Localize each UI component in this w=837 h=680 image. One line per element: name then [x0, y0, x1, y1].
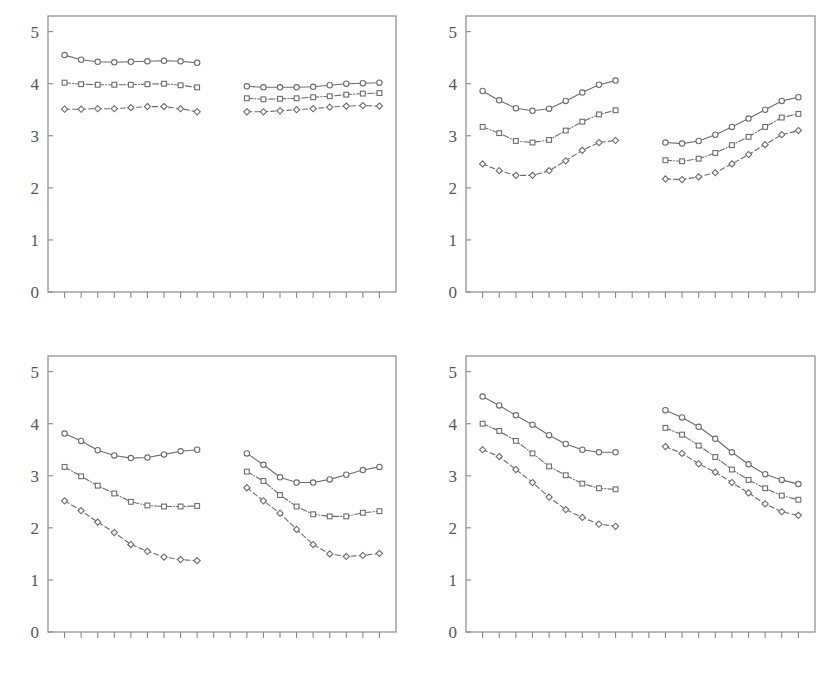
data-point-marker-diamond: [513, 172, 519, 178]
data-point-marker-diamond: [327, 104, 333, 110]
data-point-marker-circle: [277, 475, 282, 480]
data-point-marker-circle: [62, 52, 67, 57]
data-point-marker-square: [480, 125, 485, 130]
data-point-marker-circle: [613, 450, 618, 455]
data-point-marker-circle: [779, 98, 784, 103]
data-point-marker-square: [112, 491, 117, 496]
data-point-marker-diamond: [277, 108, 283, 114]
y-axis-tick-label: 3: [449, 127, 458, 146]
data-point-marker-square: [680, 432, 685, 437]
data-point-marker-square: [746, 478, 751, 483]
data-point-marker-square: [480, 421, 485, 426]
panel-plot-area: 012345: [0, 0, 418, 340]
data-point-marker-square: [79, 82, 84, 87]
y-axis-tick-label: 1: [31, 231, 40, 250]
data-point-marker-circle: [112, 453, 117, 458]
data-point-marker-square: [377, 509, 382, 514]
data-point-marker-square: [680, 159, 685, 164]
data-point-marker-diamond: [612, 523, 618, 529]
data-point-marker-circle: [261, 85, 266, 90]
data-point-marker-circle: [762, 107, 767, 112]
y-axis-tick-label: 0: [31, 623, 40, 642]
data-point-marker-square: [377, 91, 382, 96]
data-point-marker-square: [597, 112, 602, 117]
y-axis-tick-label: 0: [449, 283, 458, 302]
data-point-marker-circle: [729, 450, 734, 455]
series-line-series-3: [65, 501, 198, 561]
data-point-marker-diamond: [795, 127, 801, 133]
data-point-marker-square: [261, 97, 266, 102]
y-axis-tick-label: 4: [31, 415, 40, 434]
data-point-marker-diamond: [779, 132, 785, 138]
panel-plot-area: 012345: [0, 340, 418, 680]
data-point-marker-diamond: [61, 498, 67, 504]
data-point-marker-square: [128, 82, 133, 87]
data-point-marker-circle: [161, 58, 166, 63]
data-point-marker-diamond: [293, 107, 299, 113]
data-point-marker-square: [344, 514, 349, 519]
data-point-marker-circle: [78, 57, 83, 62]
data-point-marker-diamond: [712, 170, 718, 176]
data-point-marker-square: [696, 443, 701, 448]
data-point-marker-diamond: [729, 161, 735, 167]
data-point-marker-diamond: [61, 106, 67, 112]
data-point-marker-diamond: [662, 176, 668, 182]
data-point-marker-square: [244, 96, 249, 101]
data-point-marker-circle: [513, 105, 518, 110]
data-point-marker-diamond: [194, 109, 200, 115]
data-point-marker-square: [663, 425, 668, 430]
panel-top-left: 012345: [0, 0, 418, 340]
data-point-marker-diamond: [596, 521, 602, 527]
data-point-marker-square: [62, 80, 67, 85]
data-point-marker-circle: [128, 455, 133, 460]
data-point-marker-circle: [244, 84, 249, 89]
data-point-marker-diamond: [529, 172, 535, 178]
data-point-marker-square: [713, 151, 718, 156]
data-point-marker-diamond: [546, 494, 552, 500]
data-point-marker-square: [327, 514, 332, 519]
y-axis-tick-label: 4: [31, 75, 40, 94]
data-point-marker-square: [796, 112, 801, 117]
plot-frame: [48, 356, 396, 632]
data-point-marker-circle: [178, 449, 183, 454]
data-point-marker-diamond: [144, 548, 150, 554]
data-point-marker-diamond: [480, 447, 486, 453]
data-point-marker-square: [796, 497, 801, 502]
data-point-marker-square: [261, 479, 266, 484]
panel-bottom-left: 012345: [0, 340, 418, 680]
data-point-marker-circle: [112, 60, 117, 65]
data-point-marker-diamond: [762, 501, 768, 507]
y-axis-tick-label: 2: [31, 519, 40, 538]
data-point-marker-square: [597, 486, 602, 491]
series-line-series-1: [483, 397, 616, 453]
data-point-marker-square: [497, 429, 502, 434]
data-point-marker-square: [344, 92, 349, 97]
data-point-marker-circle: [663, 407, 668, 412]
data-point-marker-diamond: [310, 106, 316, 112]
data-point-marker-square: [162, 81, 167, 86]
y-axis-tick-label: 2: [449, 179, 458, 198]
plot-frame: [466, 16, 815, 292]
data-point-marker-diamond: [579, 147, 585, 153]
data-point-marker-diamond: [111, 529, 117, 535]
data-point-marker-diamond: [260, 109, 266, 115]
data-point-marker-circle: [480, 394, 485, 399]
data-point-marker-diamond: [194, 558, 200, 564]
panel-plot-area: 012345: [418, 340, 837, 680]
data-point-marker-diamond: [729, 479, 735, 485]
data-point-marker-square: [580, 481, 585, 486]
data-point-marker-circle: [713, 132, 718, 137]
y-axis-tick-label: 0: [31, 283, 40, 302]
data-point-marker-circle: [779, 477, 784, 482]
data-point-marker-circle: [696, 138, 701, 143]
data-point-marker-diamond: [177, 557, 183, 563]
series-line-series-1: [247, 453, 380, 482]
data-point-marker-diamond: [696, 174, 702, 180]
chart-canvas: 012345: [0, 340, 418, 680]
data-point-marker-circle: [563, 441, 568, 446]
data-point-marker-square: [62, 465, 67, 470]
data-point-marker-diamond: [177, 106, 183, 112]
data-point-marker-circle: [294, 480, 299, 485]
data-point-marker-diamond: [579, 514, 585, 520]
data-point-marker-diamond: [161, 104, 167, 110]
